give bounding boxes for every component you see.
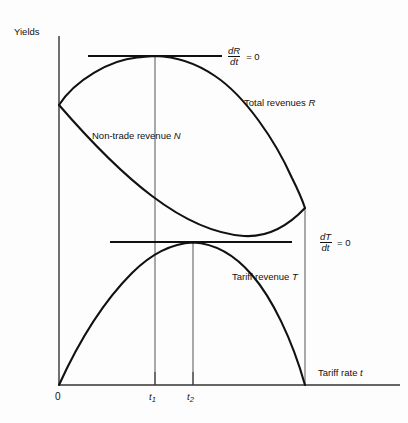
tick-label-t1: t1: [149, 392, 156, 403]
fraction-dT-dt-denominator: dt: [320, 242, 332, 253]
curve-label-tariff-revenue: Tariff revenue T: [232, 272, 298, 282]
annotation-dT-dt-equals: = 0: [337, 237, 350, 248]
origin-label: 0: [55, 392, 61, 402]
x-axis-label: Tariff rate t: [318, 368, 363, 378]
fraction-dR-dt-numerator: dR: [226, 46, 242, 56]
x-axis-label-variable: t: [360, 367, 363, 378]
curve-label-non-trade-revenue-symbol: N: [174, 130, 181, 141]
tick-label-t2: t2: [187, 392, 194, 403]
fraction-dT-dt-numerator: dT: [318, 232, 333, 242]
annotation-dR-dt-zero: dR dt = 0: [226, 46, 260, 68]
curve-label-tariff-revenue-text: Tariff revenue: [232, 271, 292, 282]
x-axis-label-text: Tariff rate: [318, 367, 360, 378]
tick-label-t2-subscript: 2: [190, 395, 194, 404]
chart-plot-area: [0, 0, 408, 423]
annotation-dR-dt-equals: = 0: [246, 51, 259, 62]
fraction-dR-dt: dR dt: [226, 46, 242, 68]
curve-label-total-revenue: Total revenues R: [244, 98, 315, 108]
fraction-dR-dt-denominator: dt: [228, 56, 240, 67]
tick-label-t1-subscript: 1: [152, 395, 156, 404]
curve-non-trade-revenue-N: [59, 105, 305, 236]
fraction-dT-dt: dT dt: [318, 232, 333, 254]
curve-label-non-trade-revenue: Non-trade revenue N: [92, 131, 181, 141]
tariff-yields-figure: Yields Tariff rate t 0 t1 t2 Total reven…: [0, 0, 408, 423]
curve-label-total-revenue-symbol: R: [308, 97, 315, 108]
y-axis-label: Yields: [14, 27, 40, 37]
curve-label-total-revenue-text: Total revenues: [244, 97, 308, 108]
curve-tariff-revenue-T: [59, 243, 305, 386]
curve-label-tariff-revenue-symbol: T: [292, 271, 298, 282]
curve-label-non-trade-revenue-text: Non-trade revenue: [92, 130, 174, 141]
annotation-dT-dt-zero: dT dt = 0: [318, 232, 351, 254]
